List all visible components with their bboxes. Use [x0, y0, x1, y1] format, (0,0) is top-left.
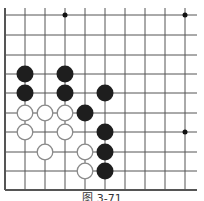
black-stone	[17, 66, 34, 83]
black-stone	[57, 66, 74, 83]
black-stone	[17, 85, 34, 102]
figure-caption: 图 3-71	[0, 193, 204, 201]
white-stone	[77, 163, 93, 179]
white-stone	[37, 105, 53, 121]
white-stone	[77, 144, 93, 160]
white-stone	[17, 105, 33, 121]
star-point	[183, 13, 188, 18]
black-stone	[57, 85, 74, 102]
star-point	[63, 13, 68, 18]
white-stone	[17, 124, 33, 140]
black-stone	[97, 124, 114, 141]
white-stone	[57, 105, 73, 121]
white-stone	[57, 124, 73, 140]
white-stone	[37, 144, 53, 160]
black-stone	[97, 85, 114, 102]
star-point	[183, 130, 188, 135]
go-board	[0, 0, 204, 201]
black-stone	[97, 163, 114, 180]
black-stone	[77, 105, 94, 122]
black-stone	[97, 144, 114, 161]
